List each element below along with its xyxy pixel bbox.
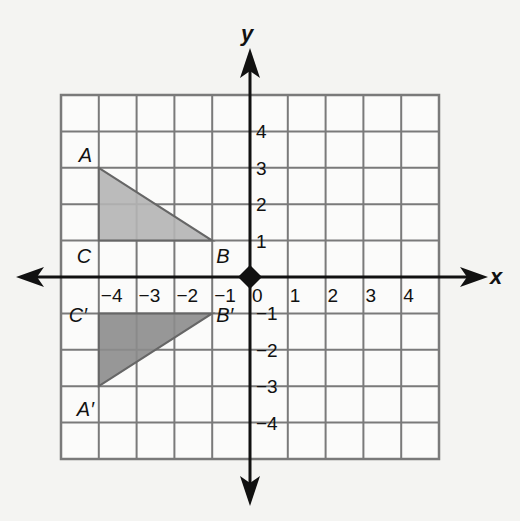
coordinate-plane: x y −4−3−2−1012344321−1−2−3−4 ABCA′B′C′ bbox=[0, 0, 520, 521]
x-tick-label: 2 bbox=[328, 285, 339, 306]
y-tick-label: −3 bbox=[256, 376, 278, 397]
point-label: B′ bbox=[216, 304, 234, 326]
x-tick-label: 3 bbox=[365, 285, 376, 306]
y-tick-label: −2 bbox=[256, 340, 278, 361]
y-tick-label: 1 bbox=[256, 231, 267, 252]
point-label: A bbox=[78, 144, 92, 166]
y-tick-label: 2 bbox=[256, 194, 267, 215]
x-axis-label: x bbox=[489, 264, 503, 289]
y-tick-label: −1 bbox=[256, 303, 278, 324]
point-label: C bbox=[77, 245, 92, 267]
point-label: C′ bbox=[69, 304, 88, 326]
x-tick-label: 4 bbox=[403, 285, 414, 306]
y-tick-label: 4 bbox=[256, 121, 267, 142]
y-tick-label: 3 bbox=[256, 158, 267, 179]
x-tick-label: 1 bbox=[290, 285, 301, 306]
x-tick-label: −1 bbox=[214, 285, 236, 306]
x-tick-label: −2 bbox=[176, 285, 198, 306]
y-tick-label: −4 bbox=[256, 413, 278, 434]
y-axis-label: y bbox=[240, 21, 255, 46]
x-tick-label: −4 bbox=[101, 285, 123, 306]
point-label: B bbox=[216, 245, 229, 267]
point-label: A′ bbox=[76, 398, 95, 420]
x-tick-label: −3 bbox=[139, 285, 161, 306]
